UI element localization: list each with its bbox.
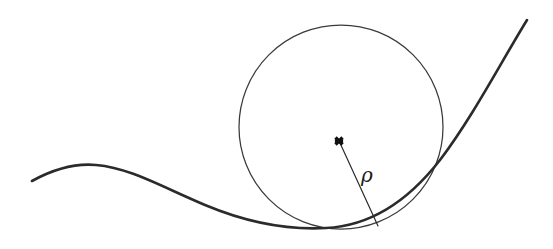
- figure-canvas: ρ: [0, 0, 553, 249]
- figure-background: [0, 0, 553, 249]
- rho-label: ρ: [360, 163, 373, 187]
- osculating-circle-diagram: ρ: [0, 0, 553, 249]
